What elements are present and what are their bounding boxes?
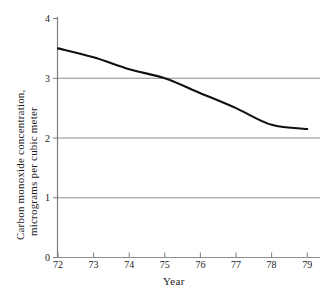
y-tick-label-3: 3	[45, 73, 50, 84]
y-axis-title-line-1: Carbon monoxide concentration,	[14, 89, 26, 240]
chart-background	[0, 0, 331, 292]
line-chart: 4 3 2 1 0 72 73 74 75 76 77 78 79	[0, 0, 331, 292]
x-axis-title: Year	[163, 275, 185, 287]
x-tick-label-73: 73	[89, 259, 99, 270]
y-tick-label-4: 4	[45, 13, 50, 24]
x-tick-label-76: 76	[195, 259, 205, 270]
y-tick-label-2: 2	[45, 133, 50, 144]
x-tick-label-72: 72	[53, 259, 63, 270]
y-tick-label-1: 1	[45, 192, 50, 203]
x-tick-label-77: 77	[231, 259, 241, 270]
x-tick-label-79: 79	[302, 259, 312, 270]
y-axis-title-line-2: micrograms per cubic meter	[27, 107, 39, 236]
y-tick-label-0: 0	[45, 252, 50, 263]
x-tick-label-74: 74	[124, 259, 134, 270]
x-tick-label-75: 75	[160, 259, 170, 270]
x-tick-label-78: 78	[267, 259, 277, 270]
chart-container: 4 3 2 1 0 72 73 74 75 76 77 78 79	[0, 0, 331, 292]
y-axis-title: Carbon monoxide concentration, microgram…	[14, 89, 39, 240]
